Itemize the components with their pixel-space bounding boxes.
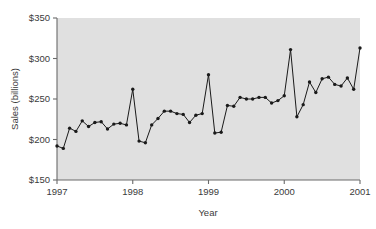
data-point [144, 141, 147, 144]
data-point [257, 96, 260, 99]
x-tick-label: 1997 [46, 186, 67, 197]
data-point [150, 123, 153, 126]
y-axis-tick-labels: $150$200$250$300$350 [29, 12, 50, 185]
x-tick-label: 2000 [274, 186, 295, 197]
data-point [308, 80, 311, 83]
data-point [339, 84, 342, 87]
data-point [106, 127, 109, 130]
data-point [238, 96, 241, 99]
data-point [226, 104, 229, 107]
data-point [219, 131, 222, 134]
data-point [163, 109, 166, 112]
data-point [188, 121, 191, 124]
data-point [62, 147, 65, 150]
data-point [175, 112, 178, 115]
data-point [276, 99, 279, 102]
data-point [270, 101, 273, 104]
data-point [333, 83, 336, 86]
data-point [125, 123, 128, 126]
sales-line-chart: $150$200$250$300$350 1997199819992000200… [0, 0, 376, 229]
chart-figure: $150$200$250$300$350 1997199819992000200… [0, 0, 376, 229]
data-point [327, 75, 330, 78]
data-point [301, 103, 304, 106]
data-point [289, 48, 292, 51]
x-axis-ticks [57, 180, 360, 184]
data-point [137, 139, 140, 142]
x-tick-label: 2001 [349, 186, 370, 197]
data-point [283, 94, 286, 97]
data-point [264, 96, 267, 99]
y-tick-label: $350 [29, 12, 50, 23]
y-axis-title: Sales (billions) [9, 68, 20, 130]
data-point [194, 114, 197, 117]
data-point [182, 113, 185, 116]
data-point [87, 125, 90, 128]
data-point [169, 109, 172, 112]
y-axis-ticks [53, 18, 57, 180]
data-point [68, 126, 71, 129]
data-point [112, 122, 115, 125]
data-point [320, 77, 323, 80]
data-point [207, 73, 210, 76]
data-point [156, 117, 159, 120]
data-point [295, 115, 298, 118]
data-point [93, 121, 96, 124]
data-point [251, 97, 254, 100]
data-point [74, 130, 77, 133]
plot-area-background [57, 18, 360, 180]
data-point [346, 76, 349, 79]
data-point [81, 119, 84, 122]
x-axis-tick-labels: 19971998199920002001 [46, 186, 370, 197]
data-point [358, 46, 361, 49]
x-axis-title: Year [198, 207, 217, 218]
data-point [232, 105, 235, 108]
data-point [245, 97, 248, 100]
y-tick-label: $300 [29, 53, 50, 64]
data-point [55, 144, 58, 147]
x-tick-label: 1999 [198, 186, 219, 197]
data-point [213, 131, 216, 134]
data-point [131, 88, 134, 91]
data-point [352, 88, 355, 91]
x-tick-label: 1998 [122, 186, 143, 197]
data-point [200, 112, 203, 115]
data-point [118, 122, 121, 125]
data-point [99, 120, 102, 123]
data-point [314, 91, 317, 94]
y-tick-label: $200 [29, 134, 50, 145]
y-tick-label: $250 [29, 93, 50, 104]
y-tick-label: $150 [29, 174, 50, 185]
